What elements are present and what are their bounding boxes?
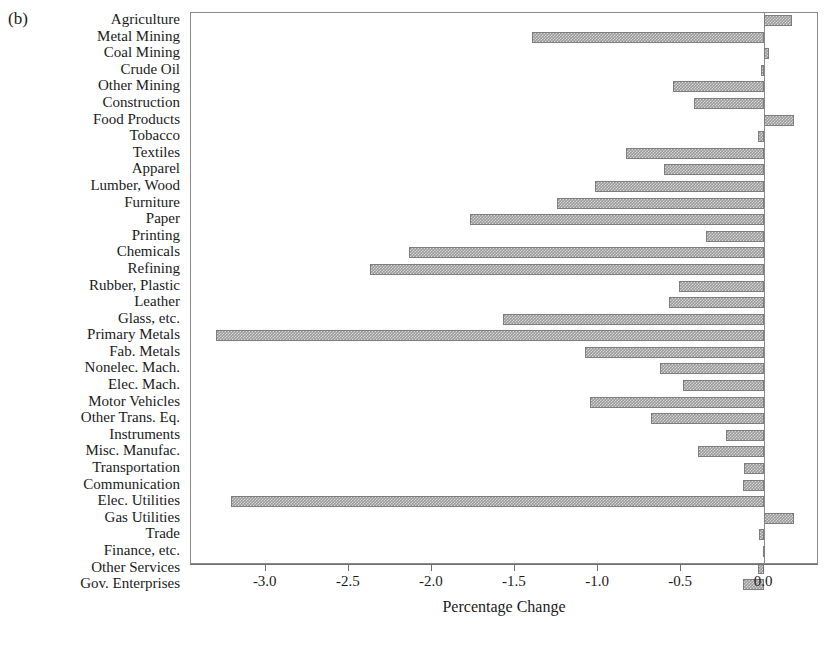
bar-row: [191, 295, 817, 312]
category-label: Agriculture: [0, 11, 186, 28]
bar-row: [191, 196, 817, 213]
bar: [726, 430, 764, 441]
bar-row: [191, 79, 817, 96]
bar-row: [191, 395, 817, 412]
bar-row: [191, 245, 817, 262]
category-label: Instruments: [0, 426, 186, 443]
bar-row: [191, 13, 817, 30]
x-tick-label: -2.0: [401, 573, 461, 590]
category-label: Glass, etc.: [0, 310, 186, 327]
category-label: Fab. Metals: [0, 343, 186, 360]
bar-row: [191, 162, 817, 179]
bar: [706, 231, 764, 242]
bar-row: [191, 478, 817, 495]
category-label: Metal Mining: [0, 28, 186, 45]
category-label: Crude Oil: [0, 61, 186, 78]
x-tick-label: -1.0: [567, 573, 627, 590]
bar-row: [191, 212, 817, 229]
bar-row: [191, 113, 817, 130]
plot-area: [190, 12, 818, 564]
category-label: Textiles: [0, 144, 186, 161]
category-label: Food Products: [0, 111, 186, 128]
x-tick: [680, 564, 681, 571]
bar-row: [191, 544, 817, 561]
bar-row: [191, 361, 817, 378]
bar: [698, 446, 764, 457]
bar-row: [191, 345, 817, 362]
category-label: Motor Vehicles: [0, 393, 186, 410]
bar: [651, 413, 764, 424]
category-label: Apparel: [0, 160, 186, 177]
bar: [370, 264, 764, 275]
x-tick-label: -0.5: [650, 573, 710, 590]
bar: [759, 529, 764, 540]
bar-row: [191, 312, 817, 329]
x-tick: [597, 564, 598, 571]
bar: [694, 98, 764, 109]
bar: [744, 463, 764, 474]
bar: [626, 148, 764, 159]
bar-row: [191, 179, 817, 196]
category-label: Communication: [0, 476, 186, 493]
category-label: Leather: [0, 293, 186, 310]
bar: [532, 32, 765, 43]
bar: [763, 546, 765, 557]
x-tick: [265, 564, 266, 571]
category-label: Primary Metals: [0, 326, 186, 343]
bar-row: [191, 511, 817, 528]
bar-row: [191, 96, 817, 113]
x-tick-label: 0.0: [733, 573, 793, 590]
bar-row: [191, 428, 817, 445]
bar: [758, 131, 765, 142]
bar: [669, 297, 764, 308]
bar-row: [191, 527, 817, 544]
category-label: Chemicals: [0, 243, 186, 260]
figure-panel-b: (b) AgricultureMetal MiningCoal MiningCr…: [0, 0, 828, 645]
bar-row: [191, 444, 817, 461]
bar: [679, 281, 764, 292]
category-label: Lumber, Wood: [0, 177, 186, 194]
bar: [764, 513, 794, 524]
category-label: Printing: [0, 227, 186, 244]
category-label: Elec. Utilities: [0, 492, 186, 509]
bar-row: [191, 411, 817, 428]
bar-row: [191, 229, 817, 246]
bar: [683, 380, 764, 391]
bar: [764, 48, 769, 59]
category-label: Misc. Manufac.: [0, 442, 186, 459]
x-tick: [348, 564, 349, 571]
category-axis-labels: AgricultureMetal MiningCoal MiningCrude …: [0, 11, 186, 592]
x-tick-label: -3.0: [235, 573, 295, 590]
bar-row: [191, 494, 817, 511]
bar: [673, 81, 764, 92]
category-label: Gov. Enterprises: [0, 575, 186, 592]
bar-row: [191, 279, 817, 296]
category-label: Rubber, Plastic: [0, 277, 186, 294]
bar: [595, 181, 764, 192]
bar: [743, 480, 765, 491]
category-label: Other Services: [0, 559, 186, 576]
bar: [557, 198, 765, 209]
bar-row: [191, 30, 817, 47]
category-label: Furniture: [0, 194, 186, 211]
category-label: Finance, etc.: [0, 542, 186, 559]
category-label: Other Trans. Eq.: [0, 409, 186, 426]
bar: [764, 115, 794, 126]
bar-row: [191, 146, 817, 163]
category-label: Transportation: [0, 459, 186, 476]
bar: [585, 347, 764, 358]
category-label: Trade: [0, 525, 186, 542]
category-label: Refining: [0, 260, 186, 277]
bar-row: [191, 46, 817, 63]
bar: [590, 397, 764, 408]
category-label: Coal Mining: [0, 44, 186, 61]
x-tick: [431, 564, 432, 571]
bar-row: [191, 328, 817, 345]
category-label: Gas Utilities: [0, 509, 186, 526]
category-label: Tobacco: [0, 127, 186, 144]
bar-row: [191, 129, 817, 146]
x-axis-title: Percentage Change: [190, 598, 818, 616]
category-label: Construction: [0, 94, 186, 111]
category-label: Other Mining: [0, 77, 186, 94]
bar: [470, 214, 764, 225]
